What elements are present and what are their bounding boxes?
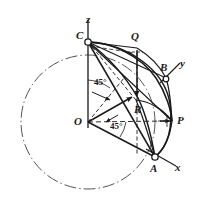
angle-label-upper: 45° (94, 78, 107, 87)
dashed-c-r (88, 42, 136, 100)
angle-arrow-upper (92, 92, 110, 100)
point-marker-B (163, 76, 169, 82)
point-label-B: B (160, 62, 167, 73)
geometry-figure: z y x C Q B R P O A 45° 45° (0, 0, 200, 207)
radius-o-r (88, 97, 132, 122)
arc-p-a (155, 121, 172, 157)
point-label-R: R (134, 104, 141, 115)
point-marker-C (85, 39, 91, 45)
point-label-A: A (150, 163, 157, 174)
point-label-P: P (177, 115, 184, 126)
point-label-C: C (76, 30, 83, 41)
radius-o-p-dashed (88, 121, 168, 122)
point-label-Q: Q (131, 31, 139, 42)
point-label-O: O (74, 116, 82, 127)
axis-label-y: y (180, 58, 185, 69)
angle-label-lower: 45° (110, 122, 123, 131)
axis-label-z: z (86, 14, 90, 25)
diagram-canvas (0, 0, 200, 207)
axis-label-x: x (175, 162, 181, 173)
arc-outer-limb (88, 42, 171, 157)
point-marker-A (152, 154, 158, 160)
